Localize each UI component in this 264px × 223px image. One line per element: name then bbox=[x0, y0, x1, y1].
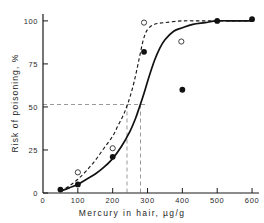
dashed-sigmoid-curve bbox=[60, 21, 252, 192]
x-axis-ticks bbox=[78, 188, 252, 193]
open-circle-point-200 bbox=[110, 146, 115, 151]
chart-figure: 0255075100 0100200300400500600 Risk of p… bbox=[0, 0, 264, 223]
x-tick-label-100: 100 bbox=[71, 196, 85, 205]
filled-circle-point-400 bbox=[179, 87, 185, 93]
solid-sigmoid-curve bbox=[60, 21, 252, 192]
x-tick-label-200: 200 bbox=[106, 196, 120, 205]
y-axis-ticks bbox=[43, 21, 48, 193]
open-circle-point-290 bbox=[141, 20, 146, 25]
open-circle-data-points bbox=[75, 20, 184, 175]
filled-circle-point-290 bbox=[141, 49, 147, 55]
x-axis-title: Mercury in hair, µg/g bbox=[0, 208, 264, 218]
x-tick-label-500: 500 bbox=[210, 196, 224, 205]
filled-circle-point-200 bbox=[110, 154, 116, 160]
open-circle-point-397 bbox=[179, 39, 184, 44]
y-axis-title: Risk of poisoning, % bbox=[10, 28, 20, 178]
filled-circle-point-50 bbox=[58, 187, 64, 193]
open-circle-point-100 bbox=[75, 170, 80, 175]
filled-circle-point-500 bbox=[214, 18, 220, 24]
axes bbox=[43, 14, 259, 193]
filled-circle-point-600 bbox=[249, 16, 255, 22]
reference-lines bbox=[43, 105, 145, 194]
x-tick-label-300: 300 bbox=[140, 196, 154, 205]
filled-circle-point-100 bbox=[75, 181, 81, 187]
y-tick-label-0: 0 bbox=[6, 189, 38, 198]
x-tick-label-400: 400 bbox=[175, 196, 189, 205]
plot-area bbox=[0, 0, 264, 223]
x-tick-label-600: 600 bbox=[245, 196, 259, 205]
x-tick-label-0: 0 bbox=[41, 196, 46, 205]
y-tick-label-100: 100 bbox=[6, 16, 38, 25]
